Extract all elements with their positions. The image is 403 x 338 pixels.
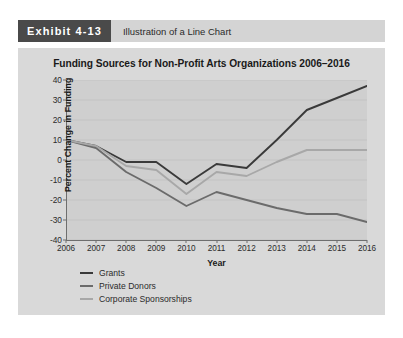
exhibit-caption: Illustration of a Line Chart: [111, 20, 231, 42]
x-tick-label: 2015: [328, 244, 346, 253]
chart-title: Funding Sources for Non-Profit Arts Orga…: [18, 58, 385, 69]
y-tick-label: -10: [36, 175, 62, 185]
y-tick-label: 0: [36, 155, 62, 165]
x-tick-mark: [306, 240, 307, 243]
legend-swatch: [80, 298, 93, 300]
y-tick-label: -30: [36, 215, 62, 225]
x-tick-mark: [186, 240, 187, 243]
x-tick-label: 2016: [358, 244, 376, 253]
legend-swatch: [80, 285, 93, 287]
x-tick-label: 2009: [147, 244, 165, 253]
series-line: [66, 140, 367, 194]
y-tick-label: 10: [36, 135, 62, 145]
x-tick-label: 2010: [177, 244, 195, 253]
x-tick-label: 2011: [208, 244, 226, 253]
y-tick-mark: [63, 200, 66, 201]
y-tick-label: 20: [36, 115, 62, 125]
legend-item: Private Donors: [80, 279, 192, 292]
chart-legend: GrantsPrivate DonorsCorporate Sponsorshi…: [80, 266, 192, 305]
exhibit-figure: Exhibit 4-13 Illustration of a Line Char…: [0, 0, 403, 338]
y-tick-label: -20: [36, 195, 62, 205]
x-tick-label: 2006: [57, 244, 75, 253]
plot-wrap: 403020100-10-20-30-40 200620072008200920…: [66, 80, 367, 240]
x-tick-mark: [156, 240, 157, 243]
x-tick-mark: [126, 240, 127, 243]
x-tick-label: 2013: [268, 244, 286, 253]
series-line: [66, 140, 367, 222]
x-tick-label: 2008: [117, 244, 135, 253]
legend-label: Grants: [99, 268, 125, 278]
y-tick-mark: [63, 220, 66, 221]
exhibit-badge: Exhibit 4-13: [18, 20, 111, 42]
x-tick-mark: [276, 240, 277, 243]
x-tick-mark: [336, 240, 337, 243]
legend-label: Corporate Sponsorships: [99, 294, 192, 304]
x-tick-mark: [216, 240, 217, 243]
x-tick-label: 2014: [298, 244, 316, 253]
x-tick-label: 2012: [237, 244, 255, 253]
legend-item: Corporate Sponsorships: [80, 292, 192, 305]
y-tick-label: 30: [36, 95, 62, 105]
x-tick-label: 2007: [87, 244, 105, 253]
x-tick-mark: [367, 240, 368, 243]
y-axis-label: Percent Change in Funding: [63, 78, 73, 192]
exhibit-header: Exhibit 4-13 Illustration of a Line Char…: [18, 20, 385, 42]
line-chart-plot: [66, 80, 367, 240]
x-tick-mark: [96, 240, 97, 243]
chart-card: Funding Sources for Non-Profit Arts Orga…: [18, 48, 385, 315]
x-tick-mark: [246, 240, 247, 243]
x-tick-mark: [66, 240, 67, 243]
legend-label: Private Donors: [99, 281, 156, 291]
series-line: [66, 86, 367, 184]
legend-item: Grants: [80, 266, 192, 279]
y-tick-label: 40: [36, 75, 62, 85]
legend-swatch: [80, 272, 93, 274]
